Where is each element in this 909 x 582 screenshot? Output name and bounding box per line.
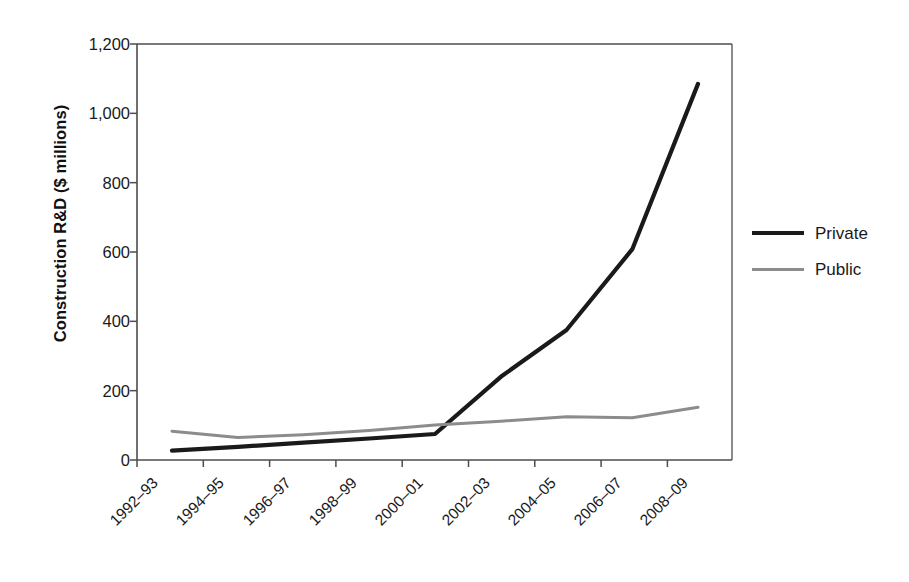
line-swatch-gray — [752, 268, 804, 271]
line-swatch-dark — [752, 231, 804, 235]
x-tick-marks — [137, 460, 667, 467]
y-tick-label: 1,000 — [58, 104, 130, 123]
y-tick-label: 0 — [58, 451, 130, 470]
y-tick-label: 400 — [58, 312, 130, 331]
legend-label: Public — [815, 261, 861, 278]
y-tick-label: 1,200 — [58, 35, 130, 54]
legend-label: Private — [815, 225, 868, 242]
legend-item-public[interactable]: Public — [752, 251, 902, 287]
data-series — [172, 84, 698, 451]
series-line-private — [172, 84, 698, 451]
x-axis-tick-labels: 1992–931994–951996–971998–992000–012002–… — [0, 474, 909, 582]
chart-legend: PrivatePublic — [752, 215, 902, 287]
y-tick-marks — [130, 44, 137, 460]
legend-item-private[interactable]: Private — [752, 215, 902, 251]
y-tick-label: 800 — [58, 173, 130, 192]
y-tick-label: 600 — [58, 243, 130, 262]
y-tick-label: 200 — [58, 381, 130, 400]
chart-figure: Construction R&D ($ millions) 0200400600… — [0, 0, 909, 582]
axis-frame — [137, 44, 732, 460]
